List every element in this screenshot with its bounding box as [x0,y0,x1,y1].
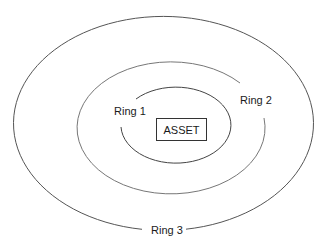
ring-1-label: Ring 1 [114,105,146,117]
ring-2-label: Ring 2 [240,94,272,106]
asset-label: ASSET [163,124,199,136]
asset-box: ASSET [156,118,207,141]
ring-3-label: Ring 3 [148,224,186,236]
